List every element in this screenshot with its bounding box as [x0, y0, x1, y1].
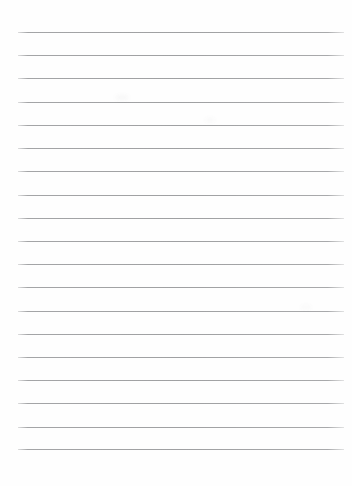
rule-line [18, 311, 344, 312]
rule-line [18, 102, 344, 103]
rule-line [18, 78, 344, 79]
rule-line [18, 449, 344, 450]
rule-line [18, 241, 344, 242]
rule-line [18, 195, 344, 196]
rule-line-group [0, 0, 352, 486]
rule-line [18, 403, 344, 404]
rule-line [18, 380, 344, 381]
rule-line [18, 264, 344, 265]
rule-line [18, 32, 344, 33]
rule-line [18, 148, 344, 149]
rule-line [18, 287, 344, 288]
rule-line [18, 218, 344, 219]
rule-line [18, 357, 344, 358]
rule-line [18, 55, 344, 56]
lined-paper-page [0, 0, 352, 486]
rule-line [18, 334, 344, 335]
rule-line [18, 171, 344, 172]
rule-line [18, 125, 344, 126]
rule-line [18, 427, 344, 428]
